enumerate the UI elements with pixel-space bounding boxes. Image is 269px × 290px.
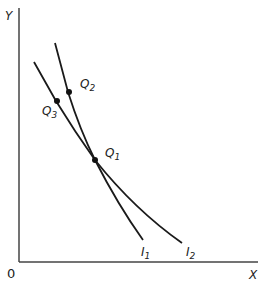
point-q1 [92, 157, 98, 163]
q3-label: Q3 [42, 104, 57, 120]
i1-label: I1 [141, 245, 150, 261]
point-q3 [54, 98, 60, 104]
origin-label: 0 [7, 266, 15, 281]
indifference-curve-diagram: Y X 0 Q1 Q2 Q3 I1 I2 [0, 0, 269, 290]
x-axis-label: X [248, 268, 258, 282]
curve-i1 [55, 43, 143, 240]
point-q2 [66, 89, 72, 95]
q2-label: Q2 [80, 77, 95, 93]
q1-label: Q1 [105, 146, 120, 162]
y-axis-label: Y [5, 9, 14, 23]
i2-label: I2 [186, 245, 196, 261]
